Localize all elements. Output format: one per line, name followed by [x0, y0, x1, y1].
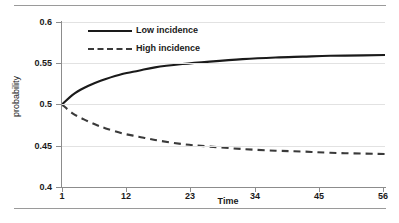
page-rule-bottom — [14, 208, 386, 209]
y-tick-label-0.55: 0.55 — [0, 59, 52, 68]
gridline-0.55 — [62, 63, 385, 64]
x-tick-label-1: 1 — [42, 192, 82, 201]
x-tick-label-12: 12 — [106, 192, 146, 201]
gridline-0.5 — [62, 104, 385, 105]
y-tick-label-0.6: 0.6 — [0, 18, 52, 27]
x-axis-title: Time — [205, 197, 251, 206]
x-tick-label-45: 45 — [299, 192, 339, 201]
legend-item-high-incidence: High incidence — [88, 40, 238, 58]
chart-figure: 0.6 0.55 0.5 0.45 0.4 1 12 23 34 45 56 p… — [0, 0, 399, 223]
y-tick-label-0.4: 0.4 — [0, 183, 52, 192]
y-tick-label-0.5: 0.5 — [0, 100, 52, 109]
legend-label-low-incidence: Low incidence — [136, 24, 198, 36]
y-axis-title: probability — [12, 57, 21, 137]
gridline-0.45 — [62, 146, 385, 147]
legend-label-high-incidence: High incidence — [136, 42, 200, 54]
legend-item-low-incidence: Low incidence — [88, 22, 238, 40]
x-tick-label-23: 23 — [170, 192, 210, 201]
legend-swatch-dashed-icon — [88, 48, 132, 50]
x-tick-label-56: 56 — [363, 192, 399, 201]
y-tick-label-0.45: 0.45 — [0, 142, 52, 151]
chart-legend: Low incidence High incidence — [88, 22, 238, 58]
legend-swatch-solid-icon — [88, 30, 132, 32]
page-rule-top — [14, 5, 386, 6]
x-axis-line — [61, 187, 386, 188]
